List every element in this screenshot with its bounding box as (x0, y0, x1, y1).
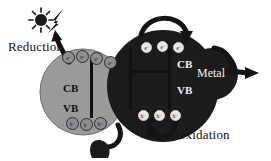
reduction-label: Reduction (8, 39, 63, 55)
electron-badge-right-0: e- (141, 42, 152, 53)
sun-icon (29, 8, 53, 32)
hole-badge-left-1: h+ (80, 118, 93, 131)
metal-label: Metal (197, 66, 225, 81)
conduction-valence-divider-right (129, 70, 171, 73)
hole-badge-right-2: h+ (170, 110, 181, 121)
oxidation-label: Oxidation (176, 127, 230, 143)
hole-badge-right-1: h+ (154, 110, 165, 121)
conduction-band-label-left: CB (63, 82, 78, 94)
hole-badge-left-0: h+ (66, 117, 79, 130)
hole-badge-right-0: h+ (138, 110, 149, 121)
electron-badge-left-3: e- (104, 56, 117, 69)
band-gap-bar-left (90, 58, 93, 118)
hole-badge-left-2: h+ (94, 117, 107, 130)
band-gap-bar-right-inner (129, 48, 132, 110)
conduction-band-label-right: CB (177, 58, 192, 70)
diagram-canvas: Reduction Oxidation Metal CB VB CB VB e-… (0, 0, 271, 161)
particle-bottom-lobe (90, 140, 110, 158)
electron-badge-left-1: e- (76, 50, 89, 63)
left-particle-tail-arrow-icon (108, 125, 120, 147)
electron-badge-left-2: e- (90, 52, 103, 65)
band-gap-bar-right (168, 48, 171, 110)
diagram-vector-layer (0, 0, 271, 161)
electron-badge-left-0: e- (62, 51, 75, 64)
electron-badge-right-1: e- (157, 41, 168, 52)
valence-band-label-right: VB (177, 84, 192, 96)
valence-band-label-left: VB (63, 102, 78, 114)
electron-badge-right-2: e- (173, 42, 184, 53)
